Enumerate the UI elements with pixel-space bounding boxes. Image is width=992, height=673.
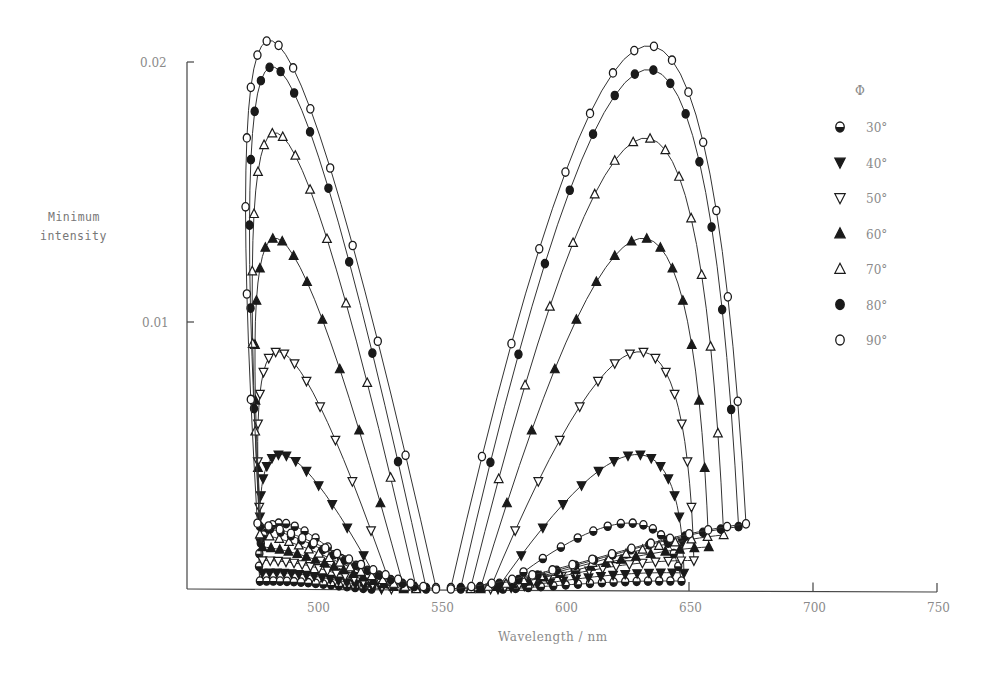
x-tick-label: 650 [679, 601, 702, 615]
series-90deg [242, 37, 750, 593]
legend-item: 30° [836, 121, 888, 135]
y-tick-label-001: 0.01 [142, 316, 169, 330]
x-tick-label: 600 [555, 601, 578, 615]
series-line [451, 46, 746, 589]
series-line [471, 138, 724, 589]
series-line [481, 239, 709, 590]
y-axis-label-line1: Minimum [48, 210, 100, 224]
series-80deg [246, 63, 742, 593]
x-axis-label: Wavelength / nm [498, 630, 608, 644]
legend-label: 50° [866, 192, 887, 206]
x-axis [187, 589, 937, 592]
axes: 500550600650700750 0.02 0.01 Minimum int… [40, 56, 950, 644]
x-tick-label: 500 [307, 601, 330, 615]
legend-label: 80° [866, 299, 887, 313]
series-line [250, 67, 427, 589]
legend: Φ 30°40°50°60°70°80°90° [835, 84, 887, 348]
legend-item: 80° [836, 299, 888, 313]
x-tick-label: 750 [927, 601, 950, 615]
legend-title: Φ [855, 84, 865, 98]
curves [242, 37, 750, 594]
legend-item: 70° [835, 263, 887, 277]
series-line [461, 70, 739, 589]
legend-item: 40° [835, 157, 887, 171]
legend-item: 90° [836, 334, 888, 348]
legend-item: 60° [835, 228, 887, 242]
legend-label: 30° [866, 121, 887, 135]
chart: 500550600650700750 0.02 0.01 Minimum int… [0, 0, 992, 673]
legend-label: 60° [866, 228, 887, 242]
y-axis-label-line2: intensity [40, 229, 107, 243]
x-tick-label: 550 [431, 601, 454, 615]
legend-label: 70° [866, 263, 887, 277]
y-tick-label-002: 0.02 [140, 56, 167, 70]
legend-label: 40° [866, 157, 887, 171]
legend-label: 90° [866, 334, 887, 348]
series-line [246, 41, 437, 589]
x-tick-label: 700 [803, 601, 826, 615]
series-60deg [251, 234, 714, 593]
legend-item: 50° [835, 192, 887, 206]
